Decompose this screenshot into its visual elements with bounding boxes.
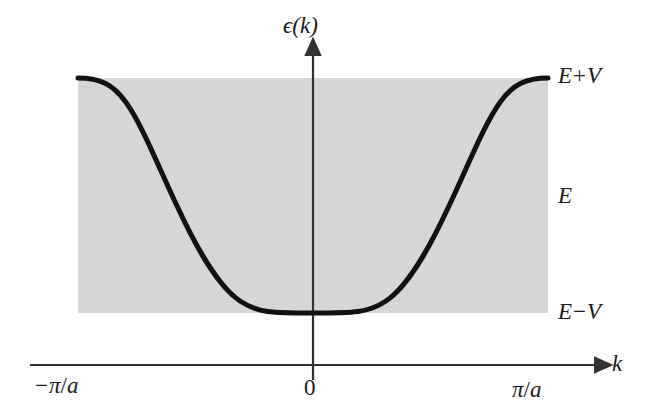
energy-level-bottom-term: V xyxy=(587,299,601,324)
x-tick-label-negative-pi-over-a: −π/a xyxy=(34,374,78,397)
energy-level-top-operator: + xyxy=(572,63,587,88)
x-tick-positive-numerator: π xyxy=(512,377,524,402)
x-tick-negative-sign: − xyxy=(34,373,49,398)
x-tick-negative-numerator: π xyxy=(49,373,61,398)
energy-level-top-term: V xyxy=(587,63,601,88)
energy-level-label-bottom: E−V xyxy=(558,300,601,323)
band-structure-figure: ϵ(k) E+V E E−V k −π/a 0 π/a xyxy=(0,0,651,420)
y-axis-label: ϵ(k) xyxy=(283,14,318,37)
energy-level-bottom-base: E xyxy=(558,299,572,324)
energy-level-label-top: E+V xyxy=(558,64,601,87)
x-tick-positive-denominator: a xyxy=(530,377,542,402)
x-tick-zero-text: 0 xyxy=(304,375,316,400)
y-axis-label-text: ϵ(k) xyxy=(283,13,318,38)
x-axis-label-text: k xyxy=(612,351,622,376)
energy-level-label-middle: E xyxy=(558,184,572,207)
x-tick-label-zero: 0 xyxy=(304,376,316,399)
energy-level-middle-base: E xyxy=(558,183,572,208)
energy-level-bottom-operator: − xyxy=(572,299,587,324)
figure-canvas xyxy=(0,0,651,420)
x-axis-label: k xyxy=(612,352,622,375)
x-tick-negative-denominator: a xyxy=(67,373,79,398)
energy-level-top-base: E xyxy=(558,63,572,88)
x-tick-label-pi-over-a: π/a xyxy=(512,378,541,401)
